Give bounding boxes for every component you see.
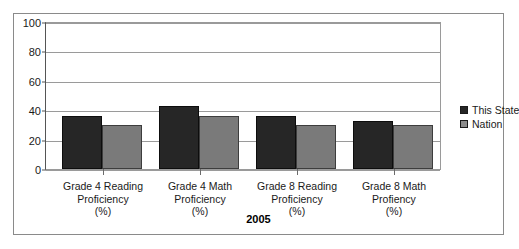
bar-nation-grade4-reading[interactable]	[102, 125, 142, 169]
plot-area: 100 80 60 40 20 0	[45, 22, 441, 170]
bar-nation-grade8-reading[interactable]	[296, 125, 336, 169]
category-label-grade8-reading: Grade 8 Reading Proficiency (%)	[257, 180, 337, 218]
bar-this-state-grade4-reading[interactable]	[62, 116, 102, 169]
legend-label-nation: Nation	[472, 118, 502, 130]
y-tick-label-60: 60	[29, 76, 41, 87]
y-tick-label-0: 0	[35, 165, 41, 176]
y-tick-label-100: 100	[23, 18, 41, 29]
bar-this-state-grade4-math[interactable]	[159, 106, 199, 169]
category-label-grade4-reading: Grade 4 Reading Proficiency (%)	[63, 180, 143, 218]
bars-layer	[46, 23, 440, 169]
y-tick-label-80: 80	[29, 47, 41, 58]
legend-swatch-icon-this-state	[460, 106, 468, 114]
chart-legend: This State Nation	[460, 103, 519, 131]
legend-item-this-state[interactable]: This State	[460, 103, 519, 117]
category-line-2: Proficiency	[257, 193, 337, 206]
x-tick-grade8-math	[394, 169, 395, 175]
category-line-1: Grade 8 Reading	[257, 180, 337, 193]
bar-group-grade8-math	[353, 23, 435, 169]
bar-group-grade4-reading	[62, 23, 144, 169]
legend-item-nation[interactable]: Nation	[460, 117, 519, 131]
bar-this-state-grade8-reading[interactable]	[256, 116, 296, 169]
category-line-1: Grade 4 Math	[168, 180, 232, 193]
category-line-2: Proficiency	[63, 193, 143, 206]
bar-nation-grade4-math[interactable]	[199, 116, 239, 169]
gridline-0: 0	[46, 170, 440, 171]
category-line-2: Proficiency	[168, 193, 232, 206]
y-tick-label-20: 20	[29, 135, 41, 146]
chart-frame: 100 80 60 40 20 0	[13, 13, 504, 235]
legend-label-this-state: This State	[472, 104, 519, 116]
category-line-1: Grade 8 Math	[362, 180, 426, 193]
bar-this-state-grade8-math[interactable]	[353, 121, 393, 169]
y-tick-label-40: 40	[29, 106, 41, 117]
bar-group-grade8-reading	[256, 23, 338, 169]
x-tick-grade4-reading	[103, 169, 104, 175]
category-line-2: Profiency	[362, 193, 426, 206]
bar-nation-grade8-math[interactable]	[393, 125, 433, 169]
category-label-grade8-math: Grade 8 Math Profiency (%)	[362, 180, 426, 218]
bar-group-grade4-math	[159, 23, 241, 169]
category-line-1: Grade 4 Reading	[63, 180, 143, 193]
x-tick-grade8-reading	[297, 169, 298, 175]
y-tick-mark-0	[42, 170, 46, 171]
category-label-grade4-math: Grade 4 Math Proficiency (%)	[168, 180, 232, 218]
x-axis-title-year: 2005	[14, 213, 503, 225]
x-tick-grade4-math	[200, 169, 201, 175]
legend-swatch-icon-nation	[460, 120, 468, 128]
